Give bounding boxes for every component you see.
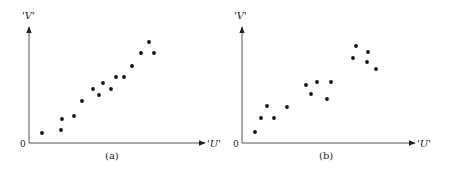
data-point — [325, 97, 329, 101]
data-point — [109, 87, 113, 91]
data-point — [365, 60, 369, 64]
caption-b: (b) — [319, 150, 333, 161]
data-point — [351, 56, 355, 60]
data-point — [253, 130, 257, 134]
x-axis-label-a: 'U' — [207, 138, 221, 149]
y-axis-label-b: 'V' — [234, 10, 247, 21]
data-point — [147, 40, 151, 44]
data-point — [101, 81, 105, 85]
data-points-b — [253, 44, 378, 134]
data-point — [130, 64, 134, 68]
data-point — [152, 51, 156, 55]
data-point — [60, 117, 64, 121]
data-point — [354, 44, 358, 48]
data-point — [272, 116, 276, 120]
data-point — [304, 83, 308, 87]
data-point — [80, 99, 84, 103]
data-point — [285, 105, 289, 109]
origin-label-a: 0 — [20, 139, 26, 149]
panel-b: 'V' 'U' 0 (b) — [233, 10, 431, 161]
origin-label-b: 0 — [233, 139, 239, 149]
data-point — [114, 75, 118, 79]
data-point — [139, 51, 143, 55]
data-point — [91, 87, 95, 91]
data-point — [315, 80, 319, 84]
data-point — [374, 67, 378, 71]
panel-a: 'V' 'U' 0 (a) — [20, 10, 221, 161]
data-point — [366, 50, 370, 54]
caption-a: (a) — [105, 150, 119, 161]
data-point — [265, 104, 269, 108]
data-point — [259, 116, 263, 120]
data-point — [122, 75, 126, 79]
data-point — [97, 93, 101, 97]
data-point — [59, 128, 63, 132]
scatter-figure: 'V' 'U' 0 (a) 'V' 'U' 0 (b) — [0, 0, 453, 170]
data-point — [72, 114, 76, 118]
data-point — [40, 131, 44, 135]
data-points-a — [40, 40, 156, 135]
x-axis-label-b: 'U' — [417, 138, 431, 149]
data-point — [329, 80, 333, 84]
y-axis-label-a: 'V' — [22, 10, 35, 21]
data-point — [309, 92, 313, 96]
